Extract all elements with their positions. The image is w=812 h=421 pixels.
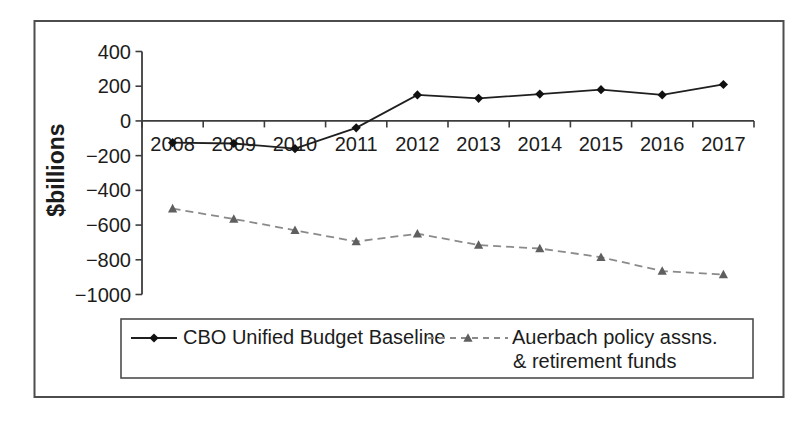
x-tick-label: 2017 [701, 133, 746, 155]
y-tick-label: −400 [86, 179, 131, 201]
x-tick-label: 2014 [518, 133, 563, 155]
y-axis-title: $billions [43, 123, 69, 216]
x-tick-label: 2015 [579, 133, 624, 155]
x-tick-label: 2016 [640, 133, 685, 155]
budget-deficit-chart: 4002000−200−400−600−800−1000 20082009201… [0, 0, 812, 421]
y-tick-label: −600 [86, 214, 131, 236]
legend-label-auerbach-line1: Auerbach policy assns. [512, 326, 718, 348]
y-tick-label: 0 [120, 110, 131, 132]
legend-label-auerbach-line2: & retirement funds [513, 350, 676, 372]
x-tick-label: 2011 [335, 133, 378, 155]
y-tick-label: −800 [86, 249, 131, 271]
x-tick-label: 2012 [395, 133, 440, 155]
legend: CBO Unified Budget Baseline Auerbach pol… [121, 319, 753, 378]
x-tick-label: 2013 [456, 133, 501, 155]
figure-canvas: 4002000−200−400−600−800−1000 20082009201… [0, 0, 812, 421]
legend-label-cbo: CBO Unified Budget Baseline [183, 326, 445, 348]
y-tick-label: −200 [86, 145, 131, 167]
y-tick-label: −1000 [75, 284, 131, 306]
y-tick-label: 400 [98, 41, 131, 63]
y-tick-label: 200 [98, 75, 131, 97]
